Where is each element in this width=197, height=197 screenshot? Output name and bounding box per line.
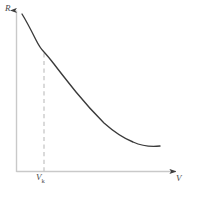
figure-container: R V Vk: [0, 0, 197, 197]
resistance-curve: [22, 14, 160, 146]
y-axis-label: R: [5, 4, 11, 13]
x-tick-label-vk-subscript: k: [42, 177, 45, 184]
x-axis-label: V: [176, 174, 182, 183]
x-tick-label-vk: Vk: [36, 173, 45, 184]
plot-canvas: [0, 0, 197, 197]
